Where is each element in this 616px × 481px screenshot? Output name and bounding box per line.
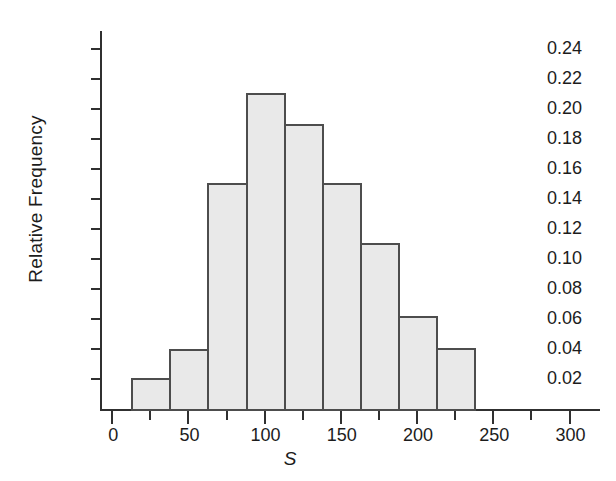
y-tick-label: 0.20	[518, 99, 582, 117]
x-axis-label: S	[100, 448, 480, 470]
x-tick-mark-minor	[226, 411, 228, 420]
x-tick-label: 0	[78, 426, 148, 444]
histogram-figure: Relative Frequency S 0.020.040.060.080.1…	[0, 0, 616, 481]
histogram-bar	[207, 183, 247, 412]
x-tick-mark-minor	[302, 411, 304, 420]
x-tick-label: 150	[307, 426, 377, 444]
y-tick-mark	[91, 198, 100, 200]
x-tick-mark-major	[340, 411, 342, 424]
y-tick-label: 0.14	[518, 189, 582, 207]
x-tick-mark-minor	[454, 411, 456, 420]
y-axis-label: Relative Frequency	[25, 79, 47, 319]
x-tick-label: 200	[383, 426, 453, 444]
y-tick-mark	[91, 348, 100, 350]
y-tick-mark	[91, 138, 100, 140]
histogram-bar	[284, 124, 324, 411]
x-tick-mark-minor	[530, 411, 532, 420]
histogram-bar	[131, 378, 171, 412]
x-tick-mark-major	[416, 411, 418, 424]
plot-area: 0.020.040.060.080.100.120.140.160.180.20…	[100, 20, 600, 410]
y-tick-label: 0.08	[518, 279, 582, 297]
histogram-bar	[436, 348, 476, 412]
y-tick-label: 0.16	[518, 159, 582, 177]
x-tick-mark-major	[569, 411, 571, 424]
y-tick-mark	[91, 48, 100, 50]
y-tick-mark	[91, 378, 100, 380]
histogram-bar	[169, 349, 209, 411]
y-tick-label: 0.10	[518, 249, 582, 267]
histogram-bar	[246, 93, 286, 412]
x-tick-mark-major	[187, 411, 189, 424]
y-tick-mark	[91, 108, 100, 110]
y-tick-mark	[91, 288, 100, 290]
y-tick-label: 0.02	[518, 369, 582, 387]
histogram-bar	[360, 243, 400, 412]
histogram-bar	[398, 316, 438, 411]
x-tick-mark-major	[264, 411, 266, 424]
y-tick-mark	[91, 258, 100, 260]
x-tick-label: 100	[231, 426, 301, 444]
y-tick-label: 0.22	[518, 69, 582, 87]
x-tick-mark-major	[111, 411, 113, 424]
x-tick-label: 50	[154, 426, 224, 444]
y-tick-mark	[91, 318, 100, 320]
x-tick-label: 300	[536, 426, 606, 444]
y-tick-mark	[91, 168, 100, 170]
y-tick-label: 0.12	[518, 219, 582, 237]
y-tick-label: 0.06	[518, 309, 582, 327]
x-tick-label: 250	[459, 426, 529, 444]
y-tick-mark	[91, 228, 100, 230]
x-tick-mark-minor	[378, 411, 380, 420]
x-tick-mark-major	[492, 411, 494, 424]
y-tick-label: 0.18	[518, 129, 582, 147]
y-axis-line	[100, 31, 102, 411]
y-tick-label: 0.24	[518, 39, 582, 57]
histogram-bar	[322, 183, 362, 412]
y-tick-label: 0.04	[518, 339, 582, 357]
y-tick-mark	[91, 78, 100, 80]
x-tick-mark-minor	[149, 411, 151, 420]
